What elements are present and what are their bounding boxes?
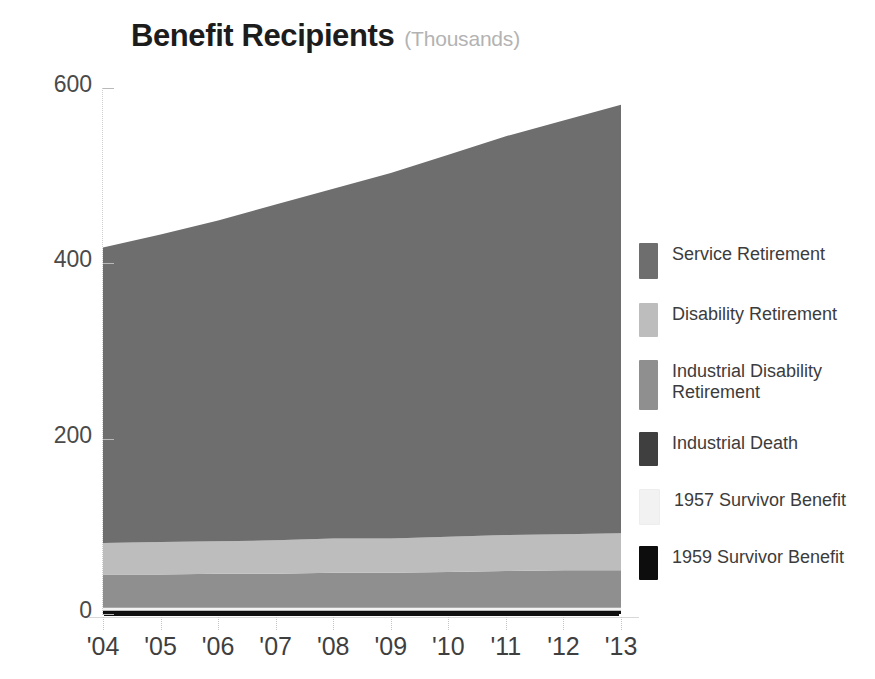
x-tick-mark bbox=[276, 617, 277, 630]
legend-item[interactable]: 1959 Survivor Benefit bbox=[639, 546, 844, 580]
legend-label: 1957 Survivor Benefit bbox=[674, 489, 846, 511]
legend-swatch bbox=[639, 489, 660, 525]
legend-item[interactable]: 1957 Survivor Benefit bbox=[639, 489, 846, 525]
legend-label: Industrial Disability Retirement bbox=[672, 360, 822, 402]
legend-label: Service Retirement bbox=[672, 243, 825, 265]
x-tick-label: '13 bbox=[605, 634, 638, 659]
legend-item[interactable]: Industrial Disability Retirement bbox=[639, 360, 822, 410]
x-tick-label: '07 bbox=[259, 634, 292, 659]
legend-label: Industrial Death bbox=[672, 432, 798, 454]
y-tick-label: 0 bbox=[79, 599, 92, 622]
y-tick-label: 600 bbox=[54, 73, 92, 96]
y-tick-mark bbox=[103, 88, 114, 89]
x-tick-label: '08 bbox=[317, 634, 350, 659]
x-tick-label: '05 bbox=[144, 634, 177, 659]
area-band bbox=[103, 570, 621, 608]
y-tick-mark bbox=[103, 439, 114, 440]
x-axis-baseline bbox=[104, 612, 619, 616]
y-tick-mark bbox=[103, 614, 114, 615]
x-axis-rule bbox=[88, 617, 639, 618]
legend-label: 1959 Survivor Benefit bbox=[672, 546, 844, 568]
area-band bbox=[103, 105, 621, 543]
x-tick-label: '09 bbox=[374, 634, 407, 659]
legend-item[interactable]: Disability Retirement bbox=[639, 303, 837, 337]
x-tick-mark bbox=[391, 617, 392, 630]
stacked-area-plot bbox=[103, 88, 621, 614]
x-tick-mark bbox=[333, 617, 334, 630]
legend-swatch bbox=[639, 243, 658, 279]
y-tick-label: 400 bbox=[54, 248, 92, 271]
x-tick-label: '06 bbox=[202, 634, 235, 659]
area-chart-svg bbox=[103, 88, 621, 614]
x-tick-mark bbox=[103, 617, 104, 630]
legend-swatch bbox=[639, 303, 658, 337]
legend-swatch bbox=[639, 546, 658, 580]
chart-title-row: Benefit Recipients (Thousands) bbox=[131, 18, 520, 54]
y-tick-mark bbox=[103, 263, 114, 264]
chart-subtitle: (Thousands) bbox=[404, 27, 520, 51]
x-tick-mark bbox=[506, 617, 507, 630]
x-tick-label: '04 bbox=[87, 634, 120, 659]
x-tick-mark bbox=[161, 617, 162, 630]
legend-swatch bbox=[639, 432, 658, 466]
y-axis-labels: 0200400600 bbox=[0, 0, 92, 679]
x-tick-mark bbox=[218, 617, 219, 630]
area-band bbox=[103, 608, 621, 611]
x-tick-mark bbox=[563, 617, 564, 630]
x-tick-label: '10 bbox=[432, 634, 465, 659]
x-tick-label: '12 bbox=[547, 634, 580, 659]
page-title: Benefit Recipients bbox=[131, 18, 394, 54]
y-tick-label: 200 bbox=[54, 424, 92, 447]
x-tick-mark bbox=[448, 617, 449, 630]
x-tick-label: '11 bbox=[491, 634, 522, 659]
legend-swatch bbox=[639, 360, 658, 410]
legend-item[interactable]: Service Retirement bbox=[639, 243, 825, 279]
x-tick-mark bbox=[621, 617, 622, 630]
legend-label: Disability Retirement bbox=[672, 303, 837, 325]
legend-item[interactable]: Industrial Death bbox=[639, 432, 798, 466]
